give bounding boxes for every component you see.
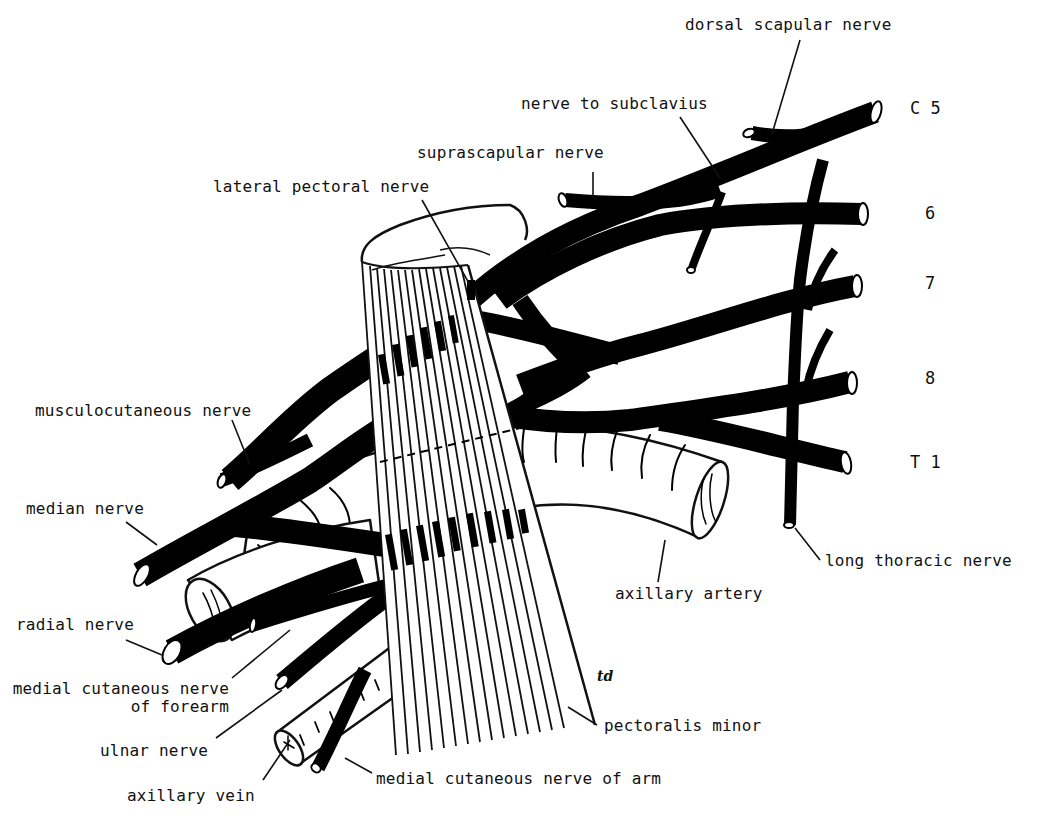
root-label-c8: 8: [925, 368, 935, 388]
label-nerve-to-subclavius: nerve to subclavius: [521, 95, 708, 113]
label-medial-cutaneous-nerve-of-arm: medial cutaneous nerve of arm: [376, 770, 661, 788]
label-musculocutaneous-nerve: musculocutaneous nerve: [35, 402, 251, 420]
label-medial-cutaneous-forearm-line1: medial cutaneous nerve: [4, 680, 229, 698]
label-radial-nerve: radial nerve: [16, 616, 134, 634]
label-axillary-vein: axillary vein: [127, 787, 255, 805]
root-label-c7: 7: [925, 273, 935, 293]
label-axillary-artery: axillary artery: [615, 585, 763, 603]
artist-signature: td: [597, 668, 613, 684]
root-label-t1: T 1: [910, 452, 941, 472]
root-label-c6: 6: [925, 203, 935, 223]
label-medial-cutaneous-forearm-line2: of forearm: [4, 698, 229, 716]
label-suprascapular-nerve: suprascapular nerve: [417, 144, 604, 162]
label-long-thoracic-nerve: long thoracic nerve: [825, 552, 1012, 570]
brachial-plexus-diagram: C 5 6 7 8 T 1 dorsal scapular nerve nerv…: [0, 0, 1037, 836]
label-lateral-pectoral-nerve: lateral pectoral nerve: [213, 178, 429, 196]
label-pectoralis-minor: pectoralis minor: [604, 717, 761, 735]
root-label-c5: C 5: [910, 98, 941, 118]
label-dorsal-scapular-nerve: dorsal scapular nerve: [685, 16, 892, 34]
label-ulnar-nerve: ulnar nerve: [100, 742, 208, 760]
label-medial-cutaneous-forearm: medial cutaneous nerve of forearm: [4, 680, 229, 716]
label-median-nerve: median nerve: [26, 500, 144, 518]
